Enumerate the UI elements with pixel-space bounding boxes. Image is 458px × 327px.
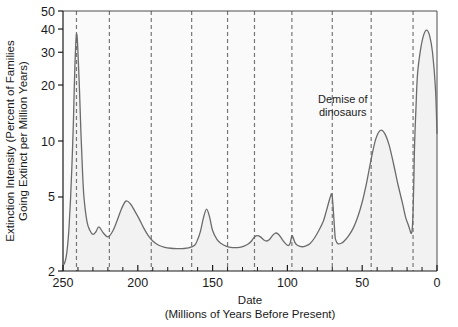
annotation-demise-of-dinosaurs: Demise of dinosaurs	[318, 93, 368, 118]
y-tick-label: 40	[41, 23, 55, 37]
y-tick-label: 5	[48, 190, 55, 204]
annotation-line1: Demise of	[318, 93, 368, 105]
y-tick-label: 10	[41, 135, 55, 149]
x-tick-label: 50	[355, 276, 369, 290]
x-axis-title-line2: (Millions of Years Before Present)	[165, 308, 336, 320]
x-tick-label: 0	[434, 276, 441, 290]
y-tick-label: 30	[41, 46, 55, 60]
x-tick-label: 100	[277, 276, 298, 290]
x-tick-label: 200	[127, 276, 148, 290]
y-tick-label: 50	[41, 5, 55, 19]
x-axis-title-line1: Date	[238, 294, 262, 306]
extinction-intensity-figure: 251020304050 250200150100500 Extinction …	[0, 0, 458, 327]
y-axis-title: Extinction Intensity (Percent of Familie…	[4, 40, 29, 242]
chart-canvas: 251020304050 250200150100500 Extinction …	[0, 0, 458, 327]
x-tick-label: 250	[53, 276, 74, 290]
y-axis-title-line2: Going Extinct per Million Years)	[17, 61, 29, 221]
y-tick-label: 20	[41, 79, 55, 93]
x-tick-label: 150	[202, 276, 223, 290]
annotation-line2: dinosaurs	[319, 106, 367, 118]
y-axis-title-line1: Extinction Intensity (Percent of Familie…	[4, 40, 16, 242]
